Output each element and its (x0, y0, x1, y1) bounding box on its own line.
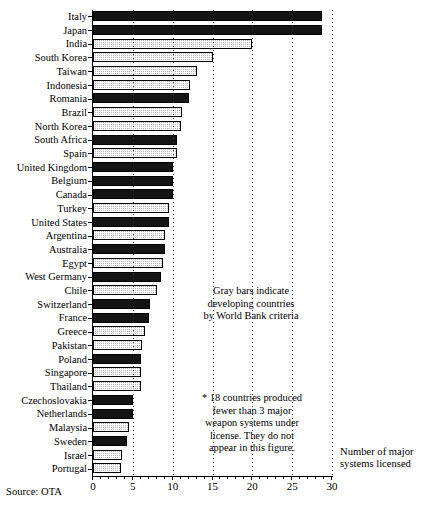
bar-japan (93, 25, 322, 35)
y-label-thailand: Thailand (0, 380, 90, 394)
y-tick (88, 30, 92, 31)
x-tick (235, 476, 236, 479)
x-tick (259, 476, 260, 479)
bar-indonesia (93, 80, 190, 90)
y-tick (88, 400, 92, 401)
y-label-czechoslovakia: Czechoslovakia (0, 394, 90, 408)
x-tick-label: 25 (287, 480, 298, 492)
y-label-switzerland: Switzerland (0, 298, 90, 312)
footnote-line-5: appear in this figure. (172, 442, 332, 455)
y-tick (88, 441, 92, 442)
bar-france (93, 313, 149, 323)
bar-malaysia (93, 422, 129, 432)
y-label-india: India (0, 37, 90, 51)
x-tick (299, 476, 300, 479)
legend-note-line-1: Gray bars indicate (176, 285, 326, 298)
bar-israel (93, 450, 122, 460)
y-label-italy: Italy (0, 10, 90, 24)
y-tick (88, 99, 92, 100)
bar-chile (93, 285, 157, 295)
footnote-line-1: * 18 countries produced (172, 392, 332, 405)
y-label-south-africa: South Africa (0, 133, 90, 147)
y-label-malaysia: Malaysia (0, 421, 90, 435)
x-tick-label: 0 (90, 480, 96, 492)
y-label-north-korea: North Korea (0, 120, 90, 134)
y-label-united-states: United States (0, 216, 90, 230)
x-tick (164, 476, 165, 479)
y-label-argentina: Argentina (0, 229, 90, 243)
bar-netherlands (93, 409, 133, 419)
x-tick (148, 476, 149, 479)
bar-north-korea (93, 121, 181, 131)
y-tick (88, 359, 92, 360)
y-tick (88, 373, 92, 374)
legend-note: Gray bars indicate developing countries … (176, 285, 326, 323)
y-tick (88, 140, 92, 141)
y-tick (88, 85, 92, 86)
legend-note-line-3: by World Bank criteria (176, 310, 326, 323)
y-tick (88, 126, 92, 127)
y-tick (88, 249, 92, 250)
x-tick (307, 476, 308, 479)
x-tick (100, 476, 101, 479)
y-tick (88, 428, 92, 429)
y-tick (88, 71, 92, 72)
x-tick-label: 20 (247, 480, 258, 492)
y-label-greece: Greece (0, 325, 90, 339)
bar-greece (93, 326, 145, 336)
bar-south-korea (93, 52, 213, 62)
x-axis-title-line-2: systems licensed (340, 458, 423, 470)
x-tick (315, 476, 316, 479)
y-label-netherlands: Netherlands (0, 407, 90, 421)
y-tick (88, 44, 92, 45)
y-label-chile: Chile (0, 284, 90, 298)
x-tick (180, 476, 181, 479)
y-label-canada: Canada (0, 188, 90, 202)
x-tick-label: 5 (130, 480, 136, 492)
bar-united-states (93, 217, 169, 227)
footnote-line-2: fewer than 3 major (172, 405, 332, 418)
footnote-line-4: license. They do not (172, 430, 332, 443)
x-tick (116, 476, 117, 479)
x-tick (188, 476, 189, 479)
x-tick (243, 476, 244, 479)
bar-australia (93, 244, 165, 254)
y-label-pakistan: Pakistan (0, 339, 90, 353)
x-tick (140, 476, 141, 479)
x-tick (204, 476, 205, 479)
y-tick (88, 153, 92, 154)
y-tick (88, 57, 92, 58)
y-label-united-kingdom: United Kingdom (0, 161, 90, 175)
bar-switzerland (93, 299, 150, 309)
x-tick (275, 476, 276, 479)
y-label-israel: Israel (0, 449, 90, 463)
y-tick (88, 236, 92, 237)
y-axis-category-labels: ItalyJapanIndiaSouth KoreaTaiwanIndonesi… (0, 10, 90, 476)
bar-egypt (93, 258, 163, 268)
bar-italy (93, 11, 322, 21)
bar-taiwan (93, 66, 197, 76)
x-tick (323, 476, 324, 479)
bar-west-germany (93, 272, 161, 282)
y-label-france: France (0, 311, 90, 325)
y-tick (88, 414, 92, 415)
bar-spain (93, 148, 177, 158)
x-tick-label: 10 (167, 480, 178, 492)
bar-turkey (93, 203, 169, 213)
y-tick (88, 469, 92, 470)
x-tick (108, 476, 109, 479)
bar-argentina (93, 230, 165, 240)
gridline (332, 10, 333, 476)
legend-note-line-2: developing countries (176, 298, 326, 311)
y-label-poland: Poland (0, 353, 90, 367)
bar-south-africa (93, 135, 177, 145)
y-tick (88, 112, 92, 113)
y-tick (88, 386, 92, 387)
x-tick (219, 476, 220, 479)
y-tick (88, 345, 92, 346)
y-tick (88, 167, 92, 168)
y-tick (88, 263, 92, 264)
y-label-romania: Romania (0, 92, 90, 106)
y-label-spain: Spain (0, 147, 90, 161)
y-label-south-korea: South Korea (0, 51, 90, 65)
